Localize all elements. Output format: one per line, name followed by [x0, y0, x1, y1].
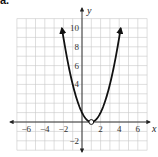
y-tick-label: 10	[70, 23, 80, 33]
y-axis-label: y	[86, 5, 92, 16]
parabola-chart: xy−6−4−224610864−2	[0, 0, 158, 157]
open-circle-marker	[89, 120, 94, 125]
x-tick-label: 2	[98, 124, 103, 134]
x-tick-label: 4	[117, 124, 122, 134]
axes	[10, 8, 150, 152]
tick-labels: xy−6−4−224610864−2	[21, 5, 157, 146]
x-tick-label: −6	[21, 124, 31, 134]
open-circle-icon	[89, 120, 94, 125]
y-tick-label: −2	[69, 136, 79, 146]
x-tick-label: −4	[40, 124, 50, 134]
y-tick-label: 8	[75, 42, 80, 52]
y-tick-label: 6	[75, 61, 80, 71]
x-tick-label: 6	[136, 124, 141, 134]
x-axis-label: x	[151, 123, 157, 134]
y-tick-label: 4	[75, 79, 80, 89]
x-tick-label: −2	[59, 124, 69, 134]
